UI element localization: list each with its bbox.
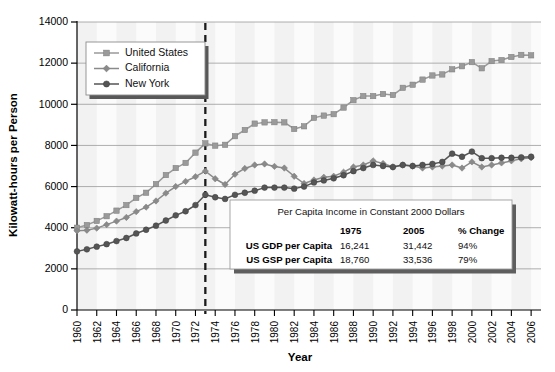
data-point <box>114 238 120 244</box>
data-point <box>282 120 287 125</box>
data-point <box>143 227 149 233</box>
data-point <box>133 231 139 237</box>
y-tick-label: 0 <box>62 303 68 315</box>
data-point <box>242 127 247 132</box>
data-point <box>153 223 159 229</box>
table-cell: 94% <box>458 240 478 251</box>
data-point <box>361 93 366 98</box>
data-point <box>508 155 514 161</box>
x-axis-title: Year <box>288 351 313 363</box>
table-row-label: US GSP per Capita <box>246 254 332 265</box>
data-point <box>301 124 306 129</box>
y-tick-label: 6000 <box>45 180 69 192</box>
data-point <box>291 186 297 192</box>
data-point <box>390 92 395 97</box>
data-point <box>193 150 198 155</box>
data-point <box>430 73 435 78</box>
y-tick-label: 14000 <box>39 15 68 27</box>
data-point <box>173 165 178 170</box>
data-point <box>351 97 356 102</box>
x-tick-label: 1970 <box>171 321 182 344</box>
data-point <box>163 218 169 224</box>
data-point <box>252 121 257 126</box>
data-point <box>351 168 357 174</box>
data-point <box>104 241 110 247</box>
data-point <box>222 196 228 202</box>
data-point <box>281 185 287 191</box>
data-point <box>103 81 109 87</box>
data-point <box>410 82 415 87</box>
data-point <box>163 172 168 177</box>
data-point <box>134 195 139 200</box>
x-tick-label: 1960 <box>72 321 83 344</box>
data-point <box>528 53 533 58</box>
data-point <box>420 77 425 82</box>
x-tick-label: 1984 <box>309 321 320 344</box>
data-point <box>114 208 119 213</box>
data-point <box>479 66 484 71</box>
data-point <box>262 185 268 191</box>
data-point <box>390 164 396 170</box>
data-point <box>519 52 524 57</box>
data-point <box>183 160 188 165</box>
data-point <box>380 163 386 169</box>
data-point <box>94 244 100 250</box>
x-tick-label: 2004 <box>506 321 517 344</box>
table-cell: 31,442 <box>403 240 432 251</box>
legend-item-label: United States <box>125 46 188 58</box>
x-tick-label: 1964 <box>111 321 122 344</box>
data-point <box>370 93 375 98</box>
table-column-header: 2005 <box>403 225 425 236</box>
y-tick-label: 10000 <box>39 98 68 110</box>
x-tick-label: 1972 <box>190 321 201 344</box>
x-tick-label: 1994 <box>408 321 419 344</box>
data-point <box>528 154 534 160</box>
x-tick-label: 1992 <box>388 321 399 344</box>
data-point <box>449 151 455 157</box>
x-tick-label: 1974 <box>210 321 221 344</box>
x-tick-label: 1966 <box>131 321 142 344</box>
data-point <box>311 115 316 120</box>
table-row-label: US GDP per Capita <box>246 240 333 251</box>
table-cell: 18,760 <box>340 254 369 265</box>
data-point <box>380 91 385 96</box>
data-point <box>202 192 208 198</box>
y-axis-title: Kilowatt-hours per Person <box>7 93 19 237</box>
y-tick-label: 4000 <box>45 221 69 233</box>
data-point <box>252 188 258 194</box>
x-tick-label: 1996 <box>427 321 438 344</box>
x-tick-label: 1982 <box>289 321 300 344</box>
data-point <box>410 163 416 169</box>
data-point <box>301 184 307 190</box>
x-tick-label: 1990 <box>368 321 379 344</box>
data-point <box>509 54 514 59</box>
data-point <box>124 202 129 207</box>
data-point <box>459 154 465 160</box>
x-tick-label: 2002 <box>487 321 498 344</box>
data-point <box>400 85 405 90</box>
data-point <box>143 190 148 195</box>
data-point <box>84 246 90 252</box>
data-point <box>400 162 406 168</box>
electricity-consumption-line-chart: 02000400060008000100001200014000 1960196… <box>0 0 555 372</box>
legend-item-label: New York <box>125 77 170 89</box>
data-point <box>479 155 485 161</box>
data-point <box>193 202 199 208</box>
data-point <box>272 119 277 124</box>
data-point <box>173 212 179 218</box>
chart-figure: 02000400060008000100001200014000 1960196… <box>0 0 555 372</box>
data-point <box>232 133 237 138</box>
data-point <box>104 50 110 56</box>
y-tick-label: 2000 <box>45 262 69 274</box>
table-title: Per Capita Income in Constant 2000 Dolla… <box>277 206 464 217</box>
x-tick-label: 1980 <box>269 321 280 344</box>
data-point <box>370 162 376 168</box>
y-tick-label: 12000 <box>39 56 68 68</box>
x-tick-label: 1968 <box>151 321 162 344</box>
data-point <box>489 155 495 161</box>
x-tick-label: 2000 <box>467 321 478 344</box>
data-point <box>331 175 337 181</box>
data-point <box>489 58 494 63</box>
table-cell: 16,241 <box>340 240 369 251</box>
data-point <box>430 161 436 167</box>
